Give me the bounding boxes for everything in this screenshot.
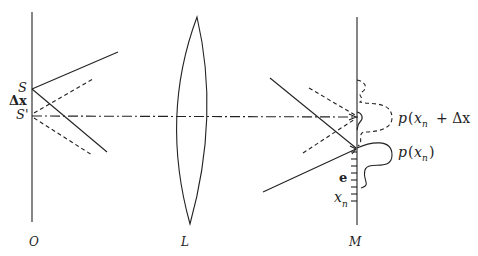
label-e: e [339, 170, 347, 185]
label-L: L [180, 235, 189, 249]
ray-dashed-image-upper [309, 88, 355, 115]
svg-text:): ) [429, 144, 434, 160]
svg-text:p: p [398, 144, 407, 160]
optical-axis [32, 116, 358, 117]
svg-text:x: x [414, 110, 422, 126]
svg-text:x: x [414, 144, 422, 160]
optics-diagram: S Δx S' O L M p ( x n + Δx p ( x n ) e x… [0, 0, 478, 256]
ray-solid-lower [32, 89, 107, 152]
profile-p-xn-dx [357, 80, 392, 146]
profile-wiggle [357, 112, 362, 130]
label-O: O [29, 235, 39, 249]
ray-solid-upper [32, 52, 118, 89]
label-M: M [348, 235, 362, 249]
ray-solid-image-upper [270, 78, 356, 148]
svg-text:x: x [334, 189, 342, 205]
label-p-shifted: p ( x n + Δx [398, 110, 470, 129]
label-xn: x n [334, 189, 348, 209]
lens-shape [177, 17, 207, 224]
label-delta-x: Δx [9, 93, 27, 108]
detector-ticks [351, 152, 357, 201]
svg-text:p: p [398, 110, 407, 126]
ray-dashed-lower [34, 118, 92, 155]
svg-text:(: ( [408, 110, 413, 126]
svg-text:n: n [422, 153, 428, 163]
svg-text:+ Δx: + Δx [436, 110, 470, 126]
svg-text:n: n [422, 119, 428, 129]
label-S-prime: S' [16, 107, 28, 122]
label-p: p ( x n ) [398, 144, 434, 163]
svg-text:(: ( [408, 144, 413, 160]
ray-dashed-image-lower [303, 119, 355, 153]
profile-p-xn [357, 143, 392, 188]
svg-text:n: n [342, 199, 348, 209]
